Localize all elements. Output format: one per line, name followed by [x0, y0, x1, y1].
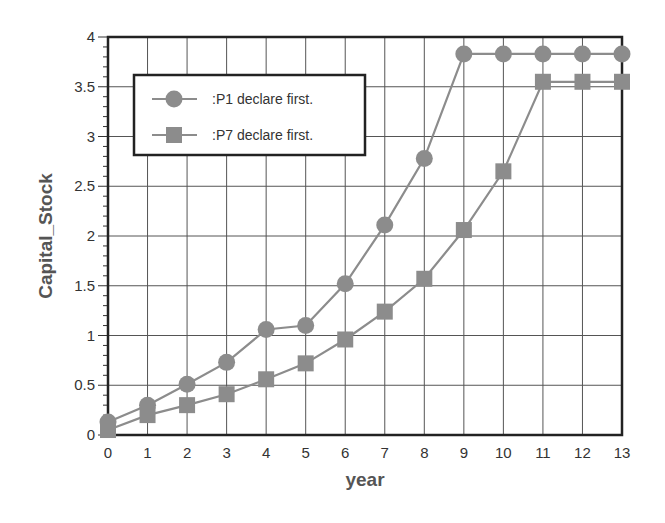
x-tick-label: 3 — [222, 444, 230, 461]
y-axis-title: Capital_Stock — [35, 173, 56, 299]
legend-square-icon — [166, 127, 182, 143]
x-tick-label: 12 — [574, 444, 591, 461]
circle-marker — [455, 45, 472, 62]
circle-marker — [416, 150, 433, 167]
y-tick-label: 0 — [87, 426, 95, 443]
x-tick-label: 11 — [535, 444, 551, 461]
y-tick-label: 2.5 — [74, 177, 95, 194]
square-marker — [179, 397, 195, 413]
square-marker — [219, 386, 235, 402]
square-marker — [298, 355, 314, 371]
y-tick-label: 0.5 — [74, 376, 95, 393]
x-axis-title: year — [345, 469, 385, 490]
x-tick-label: 2 — [183, 444, 191, 461]
circle-marker — [534, 45, 551, 62]
x-tick-label: 8 — [420, 444, 428, 461]
y-axis-minor-ticks — [98, 37, 108, 435]
square-marker — [456, 222, 472, 238]
circle-marker — [218, 354, 235, 371]
circle-marker — [495, 45, 512, 62]
y-tick-label: 3.5 — [74, 78, 95, 95]
y-tick-label: 3 — [87, 128, 95, 145]
square-marker — [258, 371, 274, 387]
y-tick-label: 4 — [87, 28, 95, 45]
legend-item: :P1 declare first. — [152, 91, 313, 108]
square-marker — [535, 74, 551, 90]
x-tick-label: 10 — [495, 444, 512, 461]
legend: :P1 declare first.:P7 declare first. — [134, 75, 365, 155]
x-tick-label: 13 — [614, 444, 631, 461]
y-tick-label: 1 — [87, 327, 95, 344]
square-marker — [574, 74, 590, 90]
square-marker — [377, 304, 393, 320]
legend-label: :P1 declare first. — [212, 91, 313, 107]
x-tick-label: 1 — [143, 444, 151, 461]
x-axis-tick-labels: 012345678910111213 — [104, 444, 631, 461]
legend-label: :P7 declare first. — [212, 127, 313, 143]
circle-marker — [614, 45, 631, 62]
x-tick-label: 4 — [262, 444, 270, 461]
legend-circle-icon — [166, 91, 183, 108]
circle-marker — [179, 376, 196, 393]
line-chart: 00.511.522.533.54 012345678910111213 :P1… — [0, 0, 665, 523]
y-tick-label: 2 — [87, 227, 95, 244]
square-marker — [495, 163, 511, 179]
x-tick-label: 6 — [341, 444, 349, 461]
circle-marker — [574, 45, 591, 62]
circle-marker — [258, 321, 275, 338]
legend-item: :P7 declare first. — [152, 127, 313, 143]
square-marker — [100, 422, 116, 438]
square-marker — [140, 407, 156, 423]
circle-marker — [297, 317, 314, 334]
square-marker — [614, 74, 630, 90]
circle-marker — [376, 217, 393, 234]
y-tick-label: 1.5 — [74, 277, 95, 294]
x-tick-label: 9 — [460, 444, 468, 461]
square-marker — [416, 271, 432, 287]
square-marker — [337, 331, 353, 347]
x-tick-label: 7 — [381, 444, 389, 461]
y-axis-tick-labels: 00.511.522.533.54 — [74, 28, 95, 443]
circle-marker — [337, 275, 354, 292]
x-tick-label: 0 — [104, 444, 112, 461]
x-tick-label: 5 — [302, 444, 310, 461]
